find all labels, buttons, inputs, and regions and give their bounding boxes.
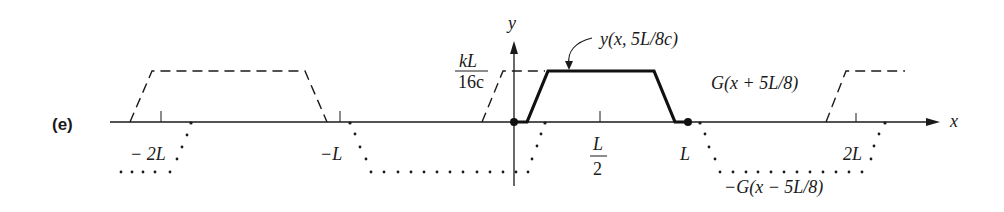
y-axis-label: y bbox=[506, 13, 516, 33]
dashed-curve-label: G(x + 5L/8) bbox=[711, 73, 798, 94]
tick-label-minus-L: −L bbox=[320, 144, 342, 164]
tick-label-minus-2L: − 2L bbox=[130, 144, 166, 164]
wave-superposition-diagram: (e) x y − 2L −L L 2 L 2L kL 16c bbox=[0, 0, 1004, 212]
tick-label-2L: 2L bbox=[843, 144, 862, 164]
y-axis-arrow-icon bbox=[510, 41, 518, 54]
x-axis-arrow-icon bbox=[926, 118, 940, 126]
x-axis-label: x bbox=[949, 111, 958, 131]
solid-curve bbox=[514, 71, 688, 122]
dotted-curve bbox=[120, 121, 887, 173]
leader-line bbox=[569, 38, 592, 64]
level-label-den: 16c bbox=[458, 72, 484, 92]
endpoint-dot-L bbox=[684, 118, 692, 126]
level-label-num: kL bbox=[459, 51, 477, 71]
tick-label-L-half-den: 2 bbox=[593, 159, 602, 179]
tick-label-L: L bbox=[679, 144, 690, 164]
dashed-curve-right bbox=[826, 71, 905, 122]
leader-arrow-icon bbox=[565, 61, 573, 70]
dashed-curve-left bbox=[130, 71, 327, 122]
panel-label: (e) bbox=[52, 115, 73, 134]
dotted-curve-label: −G(x − 5L/8) bbox=[724, 177, 823, 198]
endpoint-dot-origin bbox=[510, 118, 518, 126]
solid-curve-label: y(x, 5L/8c) bbox=[598, 29, 678, 50]
tick-label-L-half-num: L bbox=[592, 134, 603, 154]
